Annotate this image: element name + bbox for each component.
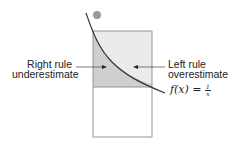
right-rule-label-line2: underestimate — [12, 69, 72, 79]
function-lhs: f(x) = — [170, 83, 205, 96]
lower-rectangle — [93, 87, 152, 137]
fraction: 1 x — [205, 84, 211, 97]
left-rule-label: Left rule overestimate — [168, 59, 228, 79]
right-rule-arrow — [76, 65, 107, 69]
right-rule-label: Right rule underestimate — [12, 59, 72, 79]
fraction-denominator: x — [205, 91, 211, 97]
left-rule-label-line2: overestimate — [168, 69, 228, 79]
blob-mark — [93, 11, 101, 19]
function-label: f(x) = 1 x — [170, 83, 211, 97]
